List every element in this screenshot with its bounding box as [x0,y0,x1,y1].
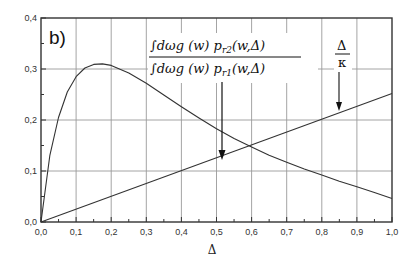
x-tick-label: 0,3 [140,227,153,237]
y-tick-label: 0,3 [24,64,37,74]
delta-kappa-annotation: Δ κ [334,37,352,111]
x-tick-label: 0,1 [70,227,83,237]
x-tick-label: 0,7 [280,227,293,237]
kappa-denominator: κ [338,55,346,70]
chart: 0,00,10,20,30,40,50,60,70,80,91,0 0,00,1… [0,0,415,267]
x-tick-label: 0,2 [105,227,118,237]
formula-numerator: ∫dωg (w) pr2(w,Δ) [150,38,265,55]
x-tick-label: 0,4 [175,227,188,237]
y-tick-label: 0,4 [24,13,37,23]
y-tick-label: 0,1 [24,166,37,176]
ratio-formula-annotation: ∫dωg (w) pr2(w,Δ) ∫dωg (w) pr1(w,Δ) [148,33,318,160]
x-tick-label: 0,9 [351,227,364,237]
y-tick-label: 0,0 [24,217,37,227]
panel-label: b) [49,27,66,48]
x-tick-label: 0,8 [316,227,329,237]
x-tick-label: 0,6 [245,227,258,237]
formula-denominator: ∫dωg (w) pr1(w,Δ) [150,61,265,78]
x-tick-label: 0,0 [35,227,48,237]
arrow-head-kappa [336,102,342,111]
y-tick-labels: 0,00,10,20,30,4 [24,13,37,227]
x-tick-labels: 0,00,10,20,30,40,50,60,70,80,91,0 [35,227,399,237]
x-tick-label: 0,5 [210,227,223,237]
kappa-numerator: Δ [337,38,346,53]
x-axis-label: Δ [208,243,217,257]
y-tick-label: 0,2 [24,115,37,125]
x-tick-label: 1,0 [386,227,399,237]
